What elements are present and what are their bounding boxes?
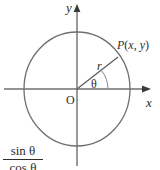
x-axis-label: x [146,96,152,109]
x-axis-arrowhead [142,86,151,93]
theta-angle-label: θ [91,78,97,90]
trig-unit-circle-figure: y x O r θ P(x, y) sin θ cos θ [0,0,160,170]
origin-label: O [66,94,75,106]
point-p-label: P(x, y) [117,39,149,51]
tangent-fraction: sin θ cos θ [3,144,43,170]
radius-label: r [97,60,102,72]
theta-arc [102,71,109,90]
fraction-denominator: cos θ [3,161,43,170]
point-p-close-paren: ) [145,38,149,52]
y-axis-arrowhead [74,4,81,12]
fraction-numerator: sin θ [3,144,43,158]
y-axis-label: y [66,1,72,14]
